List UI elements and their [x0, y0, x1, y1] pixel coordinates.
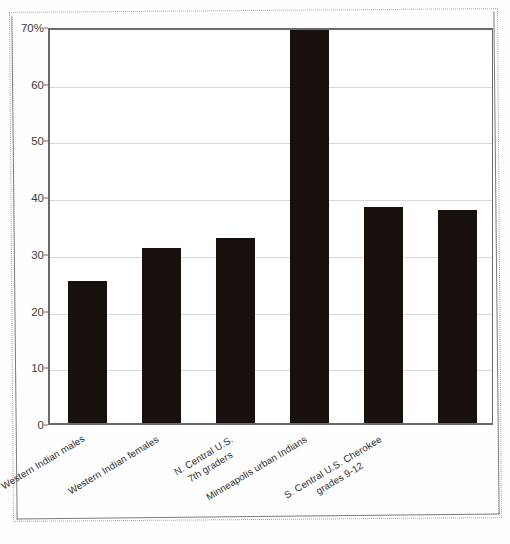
bar	[142, 248, 181, 423]
y-axis-tick-label: 70%	[0, 22, 44, 34]
y-axis-tick-label: 60	[0, 79, 44, 91]
gridline	[50, 370, 492, 371]
bar	[438, 210, 477, 423]
gridline	[50, 200, 492, 201]
bar	[68, 281, 107, 423]
gridline	[50, 143, 492, 144]
bar	[364, 207, 403, 423]
y-axis-tick-label: 40	[0, 192, 44, 204]
gridline	[50, 314, 492, 315]
bar	[216, 238, 255, 423]
gridline	[50, 257, 492, 258]
scanned-page: 010203040506070% Western Indian malesWes…	[0, 0, 510, 544]
y-axis-tick-label: 0	[0, 419, 44, 431]
y-axis-tick-label: 50	[0, 135, 44, 147]
gridline	[50, 87, 492, 88]
y-axis-tick-label: 20	[0, 306, 44, 318]
y-axis-tick-label: 30	[0, 249, 44, 261]
y-axis-tick-label: 10	[0, 362, 44, 374]
bar	[290, 28, 329, 423]
plot-area	[48, 28, 493, 425]
bar-chart: 010203040506070% Western Indian malesWes…	[0, 0, 510, 544]
